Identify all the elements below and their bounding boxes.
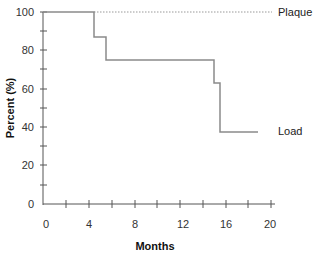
y-tick-80: 80 bbox=[22, 44, 34, 56]
x-tick-12: 12 bbox=[177, 218, 189, 230]
y-tick-100: 100 bbox=[16, 6, 34, 18]
x-tick-16: 16 bbox=[220, 218, 232, 230]
y-tick-20: 20 bbox=[22, 159, 34, 171]
x-axis-title: Months bbox=[135, 240, 174, 252]
series-load-line bbox=[43, 12, 258, 132]
survival-chart: 100 80 60 40 20 0 0 4 8 12 16 20 Months … bbox=[0, 0, 314, 258]
x-tick-0: 0 bbox=[43, 218, 49, 230]
x-tick-8: 8 bbox=[132, 218, 138, 230]
x-tick-20: 20 bbox=[264, 218, 276, 230]
y-tick-40: 40 bbox=[22, 121, 34, 133]
series-plaque-label: Plaque bbox=[278, 6, 312, 18]
y-tick-60: 60 bbox=[22, 83, 34, 95]
series-load-label: Load bbox=[278, 125, 302, 137]
y-axis-title: Percent (%) bbox=[4, 77, 16, 138]
y-tick-0: 0 bbox=[28, 198, 34, 210]
x-tick-4: 4 bbox=[86, 218, 92, 230]
